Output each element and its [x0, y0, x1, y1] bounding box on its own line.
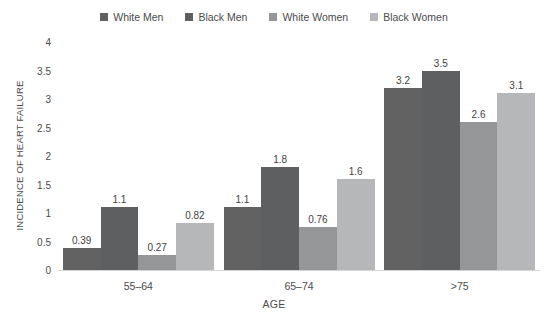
bar-group-bars: 0.391.10.270.82	[58, 42, 219, 270]
bar-value-label: 0.76	[299, 214, 337, 225]
legend-label: Black Men	[198, 12, 247, 23]
bar-slot: 3.1	[497, 42, 535, 270]
bar-value-label: 0.27	[138, 242, 176, 253]
bar-value-label: 3.1	[497, 80, 535, 91]
bar-slot: 0.82	[176, 42, 214, 270]
bar[interactable]	[101, 207, 139, 270]
bar[interactable]	[460, 122, 498, 270]
bar[interactable]	[138, 255, 176, 270]
y-axis-tick-label: 0	[45, 265, 51, 276]
bar-groups: 0.391.10.270.8255–641.11.80.761.665–743.…	[58, 42, 540, 270]
bar[interactable]	[384, 88, 422, 270]
bar-slot: 1.8	[261, 42, 299, 270]
legend-swatch-icon	[269, 13, 277, 21]
bar[interactable]	[337, 179, 375, 270]
bar-slot: 0.39	[63, 42, 101, 270]
bar-slot: 3.5	[422, 42, 460, 270]
bar-slot: 1.1	[101, 42, 139, 270]
bar-value-label: 1.1	[224, 194, 262, 205]
x-axis-title: AGE	[0, 298, 548, 310]
legend-item[interactable]: White Women	[269, 12, 348, 23]
bar[interactable]	[63, 248, 101, 270]
chart-container: White MenBlack MenWhite WomenBlack Women…	[0, 0, 548, 322]
legend-label: White Women	[282, 12, 348, 23]
legend-swatch-icon	[185, 13, 193, 21]
legend-item[interactable]: Black Women	[370, 12, 448, 23]
bar[interactable]	[497, 93, 535, 270]
bar-group: 3.23.52.63.1>75	[379, 42, 540, 270]
bar[interactable]	[261, 167, 299, 270]
bar[interactable]	[299, 227, 337, 270]
bar-slot: 0.27	[138, 42, 176, 270]
x-axis-category-label: 55–64	[58, 280, 219, 292]
bar[interactable]	[422, 71, 460, 271]
plot-area: 00.511.522.533.54 0.391.10.270.8255–641.…	[58, 42, 540, 270]
y-axis-tick-label: 1.5	[37, 179, 51, 190]
bar-slot: 0.76	[299, 42, 337, 270]
bar-value-label: 1.8	[261, 154, 299, 165]
bar-value-label: 0.82	[176, 210, 214, 221]
y-axis-tick-label: 1	[45, 208, 51, 219]
bar-group: 0.391.10.270.8255–64	[58, 42, 219, 270]
bar-value-label: 1.6	[337, 166, 375, 177]
bar-value-label: 2.6	[460, 109, 498, 120]
bar-group: 1.11.80.761.665–74	[219, 42, 380, 270]
bar-slot: 2.6	[460, 42, 498, 270]
bar-value-label: 3.5	[422, 58, 460, 69]
chart-legend: White MenBlack MenWhite WomenBlack Women	[0, 12, 548, 23]
bar-slot: 3.2	[384, 42, 422, 270]
y-axis-tick-label: 4	[45, 37, 51, 48]
bar-group-bars: 3.23.52.63.1	[379, 42, 540, 270]
legend-item[interactable]: Black Men	[185, 12, 247, 23]
y-axis-title: INCIDENCE OF HEART FAILURE	[14, 41, 25, 271]
legend-swatch-icon	[100, 13, 108, 21]
y-axis-tick-label: 2.5	[37, 122, 51, 133]
legend-swatch-icon	[370, 13, 378, 21]
bar[interactable]	[176, 223, 214, 270]
legend-label: White Men	[113, 12, 163, 23]
legend-item[interactable]: White Men	[100, 12, 163, 23]
bar-value-label: 3.2	[384, 75, 422, 86]
bar-slot: 1.1	[224, 42, 262, 270]
bar-value-label: 1.1	[101, 194, 139, 205]
y-axis-tick-label: 3	[45, 94, 51, 105]
x-axis-category-label: >75	[379, 280, 540, 292]
y-axis-tick-label: 0.5	[37, 236, 51, 247]
bar-slot: 1.6	[337, 42, 375, 270]
bar-value-label: 0.39	[63, 235, 101, 246]
bar[interactable]	[224, 207, 262, 270]
legend-label: Black Women	[383, 12, 448, 23]
bar-group-bars: 1.11.80.761.6	[219, 42, 380, 270]
y-axis-tick-label: 2	[45, 151, 51, 162]
y-axis-tick-label: 3.5	[37, 65, 51, 76]
x-axis-category-label: 65–74	[219, 280, 380, 292]
x-axis-line	[58, 270, 540, 271]
